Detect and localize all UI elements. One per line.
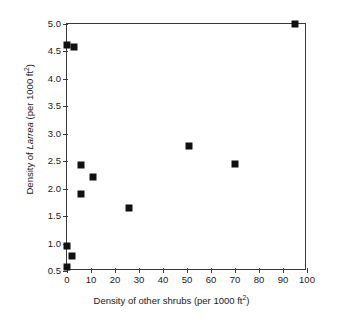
- x-tick-label: 0: [64, 275, 69, 285]
- data-point: [64, 242, 71, 249]
- x-tick-label: 60: [206, 275, 217, 285]
- data-point: [78, 191, 85, 198]
- y-tick-mark: [63, 79, 68, 80]
- x-tick-label: 70: [230, 275, 241, 285]
- x-tick-label: 50: [182, 275, 193, 285]
- y-tick-mark: [63, 106, 68, 107]
- y-tick-label: 0.5: [48, 266, 61, 276]
- data-point: [64, 263, 71, 270]
- x-tick-mark: [235, 268, 236, 273]
- plot-area: 0.51.01.52.02.53.03.54.04.55.0 010203040…: [66, 23, 306, 270]
- x-axis-title: Density of other shrubs (per 1000 ft2): [0, 296, 343, 306]
- y-tick-mark: [63, 216, 68, 217]
- x-tick-mark: [139, 268, 140, 273]
- x-tick-label: 10: [86, 275, 97, 285]
- x-tick-label: 100: [299, 275, 315, 285]
- data-point: [64, 41, 71, 48]
- y-tick-label: 3.0: [48, 129, 61, 139]
- y-tick-label: 1.0: [48, 239, 61, 249]
- y-tick-mark: [63, 24, 68, 25]
- x-tick-mark: [163, 268, 164, 273]
- x-tick-mark: [259, 268, 260, 273]
- x-tick-mark: [283, 268, 284, 273]
- x-tick-mark: [91, 268, 92, 273]
- x-tick-mark: [187, 268, 188, 273]
- y-tick-label: 5.0: [48, 19, 61, 29]
- y-tick-mark: [63, 189, 68, 190]
- data-point: [232, 160, 239, 167]
- x-tick-label: 80: [254, 275, 265, 285]
- y-tick-label: 3.5: [48, 102, 61, 112]
- data-point: [78, 162, 85, 169]
- x-tick-label: 20: [110, 275, 121, 285]
- y-tick-mark: [63, 161, 68, 162]
- x-tick-mark: [115, 268, 116, 273]
- y-tick-label: 1.5: [48, 211, 61, 221]
- x-tick-mark: [307, 268, 308, 273]
- scatter-chart-figure: 0.51.01.52.02.53.03.54.04.55.0 010203040…: [0, 0, 343, 322]
- data-point: [186, 142, 193, 149]
- x-tick-mark: [211, 268, 212, 273]
- data-point: [126, 205, 133, 212]
- y-tick-label: 4.5: [48, 47, 61, 57]
- x-tick-label: 30: [134, 275, 145, 285]
- y-tick-label: 4.0: [48, 74, 61, 84]
- x-tick-label: 90: [278, 275, 289, 285]
- y-tick-mark: [63, 51, 68, 52]
- data-point: [90, 174, 97, 181]
- y-tick-label: 2.5: [48, 156, 61, 166]
- data-point: [292, 21, 299, 28]
- x-tick-label: 40: [158, 275, 169, 285]
- data-point: [68, 253, 75, 260]
- y-tick-mark: [63, 134, 68, 135]
- y-axis-title: Density of Larrea (per 1000 ft2): [25, 14, 35, 244]
- y-tick-label: 2.0: [48, 184, 61, 194]
- data-point: [71, 44, 78, 51]
